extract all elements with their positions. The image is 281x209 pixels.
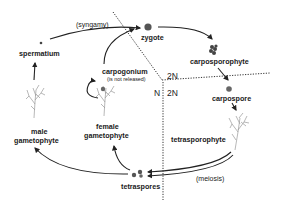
carpogonium-cell-icon — [101, 87, 105, 91]
zygote-label: zygote — [141, 33, 164, 42]
divider-horizontal — [162, 73, 270, 80]
carpogonium-note: (is not released) — [107, 76, 146, 82]
ploidy-n: N — [154, 88, 160, 98]
arrow-tetrasporophyte-to-tetraspores-1 — [148, 152, 231, 172]
tetraspores-cells-icon — [132, 170, 143, 178]
carposporophyte-cluster-icon — [209, 44, 218, 55]
male-gametophyte-plant-icon — [26, 85, 45, 118]
life-cycle-diagram: 2N N 2N zygote carposporophyte carpospor… — [0, 0, 281, 209]
carpospore-cell-icon — [226, 86, 232, 92]
ploidy-2n-upper: 2N — [167, 71, 178, 81]
zygote-cell-icon — [144, 23, 151, 30]
meiosis-label: (meiosis) — [196, 175, 224, 183]
spermatium-label: spermatium — [19, 49, 60, 58]
tetrasporophyte-plant-icon — [229, 113, 249, 150]
carposporophyte-label: carposporophyte — [190, 57, 249, 66]
female-gametophyte-label-line2: gametophyte — [84, 131, 129, 140]
ploidy-2n-lower: 2N — [167, 88, 178, 98]
tetraspores-label: tetraspores — [121, 182, 160, 191]
female-gametophyte-label-line1: female — [96, 122, 119, 131]
carpospore-label: carpospore — [212, 94, 251, 103]
female-gametophyte-plant-icon — [96, 86, 115, 116]
spermatium-cell-icon — [40, 42, 43, 45]
arrow-carpospore-to-tetrasporophyte — [232, 103, 236, 110]
arrow-male-gametophyte-to-spermatium — [34, 63, 35, 80]
arrow-spermatium-to-zygote — [50, 27, 140, 39]
arrow-female-gametophyte-loop-to-carpogonium — [87, 81, 98, 98]
arrow-tetrasporophyte-to-tetraspores-2 — [148, 155, 233, 176]
tetrasporophyte-label: tetrasporophyte — [171, 135, 226, 144]
male-gametophyte-label-line1: male — [31, 127, 47, 136]
male-gametophyte-label-line2: gametophyte — [14, 136, 59, 145]
arrow-tetraspores-to-female-gametophyte — [114, 146, 130, 170]
arrow-tetraspores-to-male-gametophyte — [35, 148, 128, 174]
arrow-carpogonium-to-zygote — [104, 29, 134, 64]
arrow-carposporophyte-to-carpospore — [218, 68, 228, 80]
arrow-zygote-to-carposporophyte — [158, 27, 212, 39]
carpogonium-label: carpogonium — [102, 67, 148, 76]
